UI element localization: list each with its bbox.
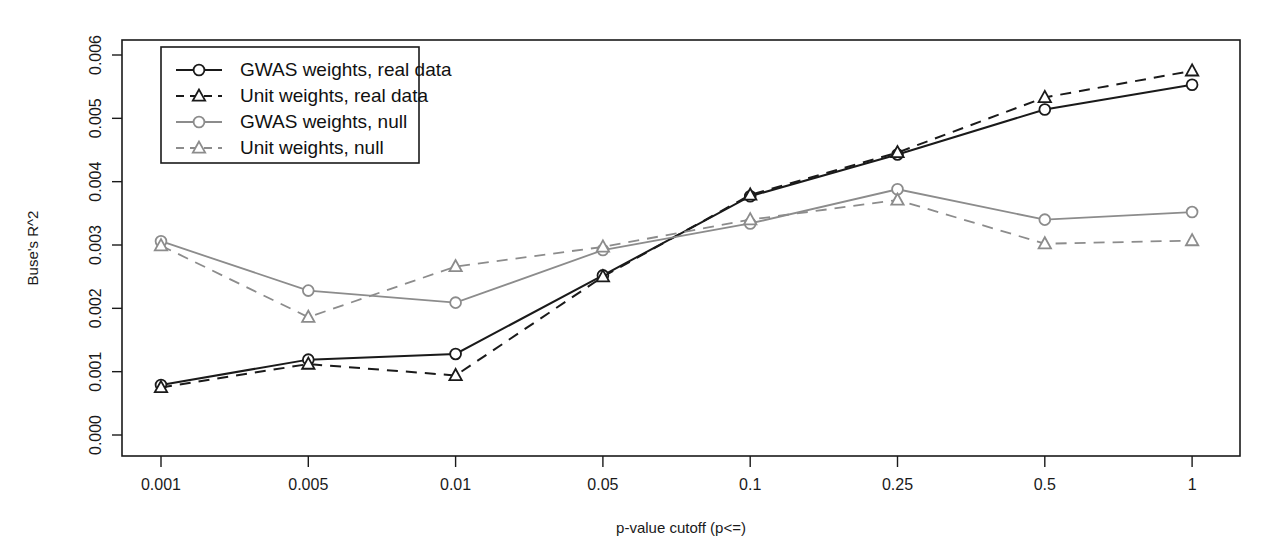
- y-tick-label: 0.000: [87, 415, 104, 455]
- buses-r2-line-chart: 0.0000.0010.0020.0030.0040.0050.006 0.00…: [0, 0, 1266, 560]
- data-point-marker-circle: [450, 349, 461, 360]
- data-point-marker-circle: [1187, 207, 1198, 218]
- x-tick-label: 0.001: [141, 476, 181, 493]
- legend-label: GWAS weights, real data: [240, 59, 452, 80]
- data-point-marker-circle: [450, 297, 461, 308]
- x-tick-label: 0.05: [587, 476, 618, 493]
- y-axis-label: Buse's R^2: [24, 211, 41, 286]
- chart-figure: 0.0000.0010.0020.0030.0040.0050.006 0.00…: [0, 0, 1266, 560]
- y-tick-label: 0.004: [87, 162, 104, 202]
- x-tick-label: 0.1: [739, 476, 761, 493]
- data-point-marker-circle: [1187, 79, 1198, 90]
- data-point-marker-circle: [1039, 104, 1050, 115]
- y-tick-label: 0.002: [87, 288, 104, 328]
- data-point-marker-circle: [194, 117, 205, 128]
- x-tick-label: 1: [1188, 476, 1197, 493]
- y-tick-label: 0.001: [87, 352, 104, 392]
- legend-label: GWAS weights, null: [240, 111, 407, 132]
- x-tick-label: 0.25: [882, 476, 913, 493]
- legend-label: Unit weights, real data: [240, 85, 428, 106]
- y-tick-label: 0.006: [87, 35, 104, 75]
- y-tick-label: 0.003: [87, 225, 104, 265]
- x-tick-label: 0.5: [1034, 476, 1056, 493]
- x-axis-label: p-value cutoff (p<=): [616, 519, 746, 536]
- x-tick-label: 0.01: [440, 476, 471, 493]
- data-point-marker-circle: [194, 65, 205, 76]
- chart-legend: GWAS weights, real dataUnit weights, rea…: [161, 47, 452, 163]
- legend-label: Unit weights, null: [240, 137, 384, 158]
- y-tick-label: 0.005: [87, 98, 104, 138]
- data-point-marker-circle: [1039, 214, 1050, 225]
- x-tick-label: 0.005: [288, 476, 328, 493]
- data-point-marker-circle: [303, 285, 314, 296]
